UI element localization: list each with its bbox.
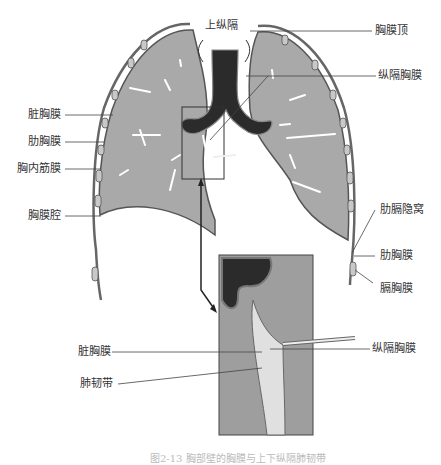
label-pleural-cupula: 胸膜顶 — [375, 25, 408, 37]
figure-caption: 图2-13 胸部壁的胸膜与上下纵隔肺韧带 — [150, 450, 326, 465]
label-diaphragmatic-pleura: 膈胸膜 — [380, 283, 413, 295]
label-superior-mediastinum: 上纵隔 — [205, 20, 238, 32]
label-costal-pleura-right: 肋胸膜 — [380, 250, 413, 262]
label-mediastinal-pleura-inset: 纵隔胸膜 — [372, 343, 416, 355]
right-lung — [249, 32, 348, 240]
label-costodiaphragmatic-recess: 肋膈隐窝 — [380, 204, 424, 216]
label-visceral-pleura-inset: 脏胸膜 — [78, 346, 111, 358]
label-endothoracic-fascia: 胸内筋膜 — [17, 163, 61, 175]
label-visceral-pleura: 脏胸膜 — [28, 109, 61, 121]
label-pulmonary-ligament: 肺韧带 — [80, 378, 113, 390]
label-pleural-cavity: 胸膜腔 — [28, 210, 61, 222]
label-mediastinal-pleura: 纵隔胸膜 — [378, 70, 422, 82]
label-costal-pleura-left: 肋胸膜 — [28, 136, 61, 148]
